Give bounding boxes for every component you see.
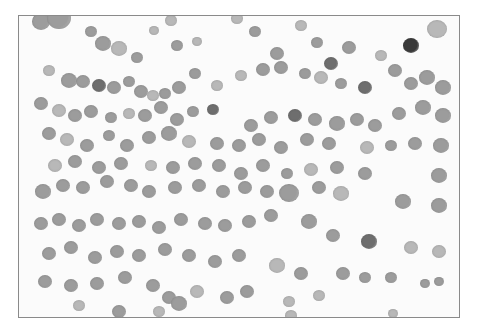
cell-nucleus: [52, 213, 66, 226]
cell-nucleus: [72, 219, 86, 232]
cell-nucleus: [85, 26, 97, 37]
cell-nucleus: [279, 184, 299, 202]
cell-nucleus: [110, 245, 124, 258]
cell-nucleus: [210, 137, 224, 150]
cell-nucleus: [56, 179, 70, 192]
cell-nucleus: [274, 61, 288, 74]
micrograph-frame: [18, 15, 460, 318]
cell-nucleus: [269, 258, 285, 273]
cell-nucleus: [300, 133, 314, 146]
cell-nucleus: [100, 175, 114, 188]
cell-nucleus: [329, 116, 345, 131]
cell-nucleus: [73, 300, 85, 311]
cell-nucleus: [107, 81, 121, 94]
cell-nucleus: [308, 113, 322, 126]
cell-nucleus: [281, 168, 293, 179]
cell-nucleus: [212, 159, 226, 172]
cell-nucleus: [232, 249, 246, 262]
cell-nucleus: [294, 267, 308, 280]
cell-nucleus: [153, 306, 165, 317]
cell-nucleus: [244, 119, 258, 132]
cell-nucleus: [242, 215, 256, 228]
cell-nucleus: [404, 77, 418, 90]
cell-nucleus: [159, 88, 171, 99]
cell-nucleus: [288, 109, 302, 122]
cell-nucleus: [120, 139, 134, 152]
cell-nucleus: [299, 68, 311, 79]
cell-nucleus: [431, 198, 447, 213]
cell-nucleus: [111, 41, 127, 56]
cell-nucleus: [103, 130, 115, 141]
cell-nucleus: [419, 70, 435, 85]
cell-nucleus: [142, 185, 156, 198]
cell-nucleus: [142, 131, 156, 144]
cell-nucleus: [335, 78, 347, 89]
cell-nucleus: [35, 184, 51, 199]
cell-nucleus: [76, 75, 90, 88]
cell-nucleus: [172, 81, 186, 94]
cell-nucleus: [76, 181, 90, 194]
cell-nucleus: [48, 159, 62, 172]
cell-nucleus: [260, 185, 274, 198]
cell-nucleus: [322, 137, 336, 150]
cell-nucleus: [256, 159, 270, 172]
cell-nucleus: [165, 15, 177, 26]
cell-nucleus: [92, 161, 106, 174]
cell-nucleus: [218, 219, 232, 232]
cell-nucleus: [231, 15, 243, 24]
cell-nucleus: [385, 140, 397, 151]
cell-nucleus: [38, 275, 52, 288]
cell-nucleus: [190, 285, 204, 298]
cell-nucleus: [61, 73, 77, 88]
cell-nucleus: [342, 41, 356, 54]
cell-nucleus: [434, 277, 444, 286]
cell-nucleus: [350, 113, 364, 126]
cell-nucleus: [90, 213, 104, 226]
cell-nucleus: [333, 186, 349, 201]
cell-nucleus: [211, 80, 223, 91]
cell-nucleus: [188, 157, 202, 170]
cell-nucleus: [235, 70, 247, 81]
cell-nucleus: [264, 111, 278, 124]
cell-nucleus: [198, 217, 212, 230]
cell-nucleus: [403, 38, 419, 53]
cell-nucleus: [375, 50, 387, 61]
cell-nucleus: [358, 81, 372, 94]
cell-nucleus: [84, 105, 98, 118]
cell-nucleus: [105, 112, 117, 123]
cell-nucleus: [392, 107, 406, 120]
cell-nucleus: [420, 279, 430, 288]
cell-nucleus: [182, 135, 196, 148]
cell-nucleus: [249, 26, 261, 37]
cell-nucleus: [146, 279, 160, 292]
cell-nucleus: [161, 126, 177, 141]
cell-nucleus: [154, 101, 168, 114]
cell-nucleus: [435, 108, 451, 123]
cell-nucleus: [330, 161, 344, 174]
cell-nucleus: [192, 179, 206, 192]
cell-nucleus: [52, 104, 66, 117]
cell-nucleus: [189, 68, 201, 79]
cell-nucleus: [138, 109, 152, 122]
cell-nucleus: [145, 160, 157, 171]
cell-nucleus: [359, 272, 371, 283]
cell-nucleus: [216, 185, 230, 198]
cell-nucleus: [301, 214, 317, 229]
cell-nucleus: [358, 167, 372, 180]
cell-nucleus: [432, 245, 446, 258]
cell-nucleus: [68, 155, 82, 168]
cell-nucleus: [270, 47, 284, 60]
cell-nucleus: [361, 234, 377, 249]
cell-nucleus: [368, 119, 382, 132]
cell-nucleus: [360, 141, 374, 154]
cell-nucleus: [388, 64, 402, 77]
cell-nucleus: [415, 100, 431, 115]
cell-nucleus: [64, 241, 78, 254]
cell-nucleus: [171, 40, 183, 51]
cell-nucleus: [326, 229, 340, 242]
cell-nucleus: [314, 71, 328, 84]
cell-nucleus: [131, 52, 143, 63]
cell-nucleus: [47, 15, 71, 29]
cell-nucleus: [187, 106, 199, 117]
cell-nucleus: [240, 285, 254, 298]
